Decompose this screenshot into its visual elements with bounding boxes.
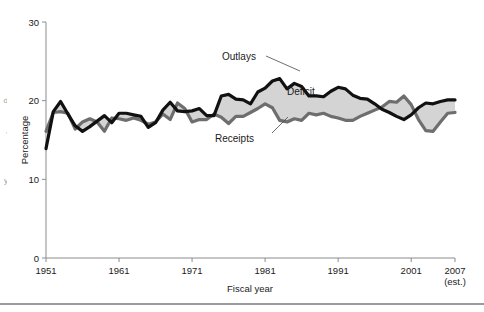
figure-bottom-rule: [0, 303, 484, 305]
y-tick-label: 10: [28, 174, 39, 185]
figure-container: d , y 0102030 19511961197119811991200120…: [0, 0, 484, 312]
x-axis-ticks: [46, 258, 455, 262]
x-tick-label: 1971: [182, 265, 203, 276]
y-tick-label: 0: [34, 253, 39, 264]
receipts-outlays-chart: 0102030 1951196119711981199120012007(est…: [0, 0, 484, 312]
x-tick-label: 1951: [35, 265, 56, 276]
deficit-label: Deficit: [287, 86, 315, 97]
x-tick-label: 2007: [444, 265, 465, 276]
outlays-label: Outlays: [222, 51, 256, 62]
x-axis-title: Fiscal year: [227, 283, 273, 294]
receipts-label: Receipts: [215, 133, 254, 144]
y-axis-ticks: [42, 22, 46, 258]
y-axis-title: Percentage: [19, 116, 30, 165]
x-tick-label: 1991: [328, 265, 349, 276]
y-tick-label: 30: [28, 17, 39, 28]
outlays-leader-line: [266, 56, 300, 71]
x-tick-label: 1961: [108, 265, 129, 276]
x-tick-label: 2001: [401, 265, 422, 276]
y-tick-label: 20: [28, 95, 39, 106]
x-tick-sublabel: (est.): [444, 276, 466, 287]
y-axis-tick-labels: 0102030: [28, 17, 39, 264]
x-tick-label: 1981: [255, 265, 276, 276]
